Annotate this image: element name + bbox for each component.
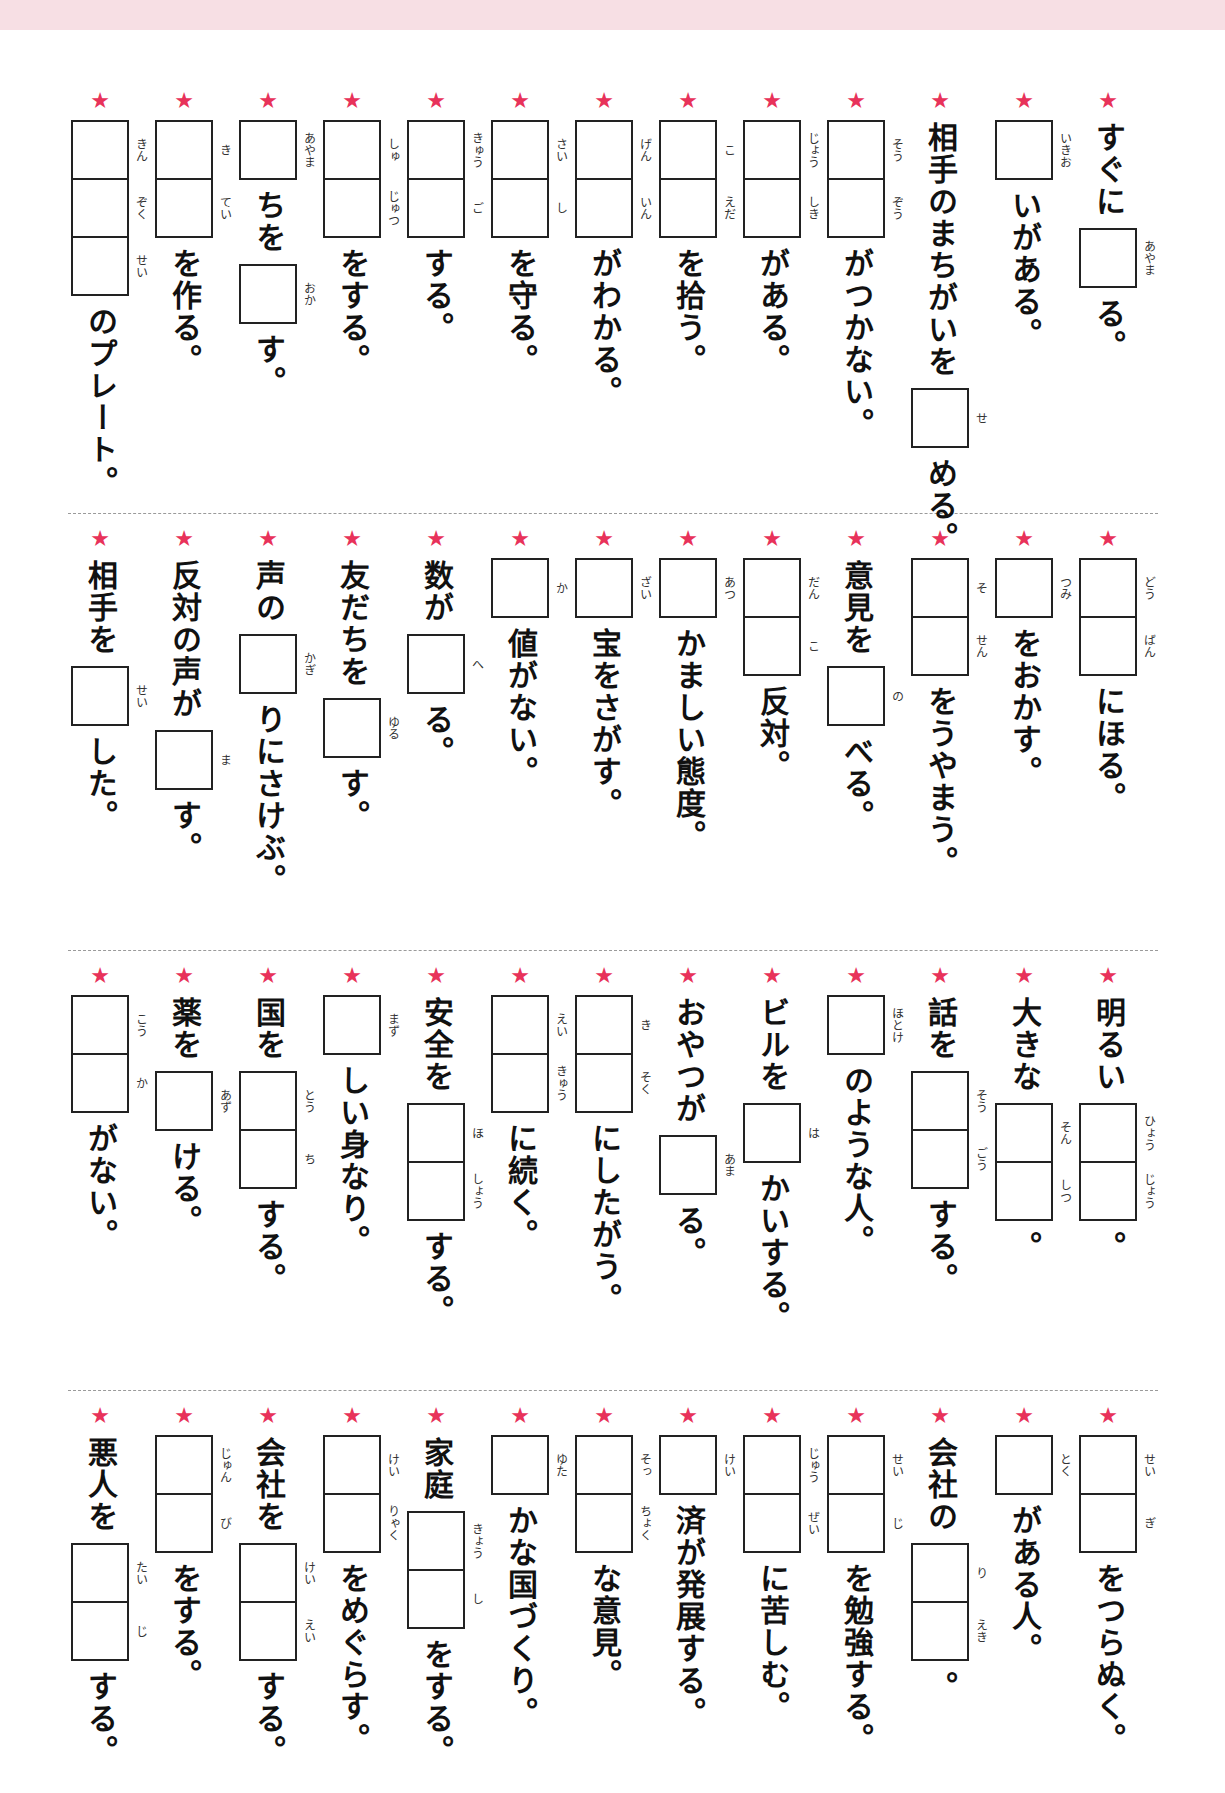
- answer-box[interactable]: たいじ: [71, 1543, 129, 1661]
- answer-cell[interactable]: けい: [325, 1437, 379, 1493]
- answer-box[interactable]: ざい: [575, 558, 633, 618]
- answer-box[interactable]: きょうし: [407, 1511, 465, 1629]
- answer-cell[interactable]: ほ: [409, 1105, 463, 1161]
- answer-cell[interactable]: ちょく: [577, 1493, 631, 1551]
- answer-box[interactable]: かぎ: [239, 634, 297, 694]
- answer-cell[interactable]: そ: [913, 560, 967, 616]
- answer-cell[interactable]: てい: [157, 178, 211, 236]
- answer-box[interactable]: ゆた: [491, 1435, 549, 1495]
- answer-box[interactable]: そうぞう: [827, 120, 885, 238]
- answer-cell[interactable]: つみ: [997, 560, 1051, 616]
- answer-cell[interactable]: ち: [241, 1129, 295, 1187]
- answer-box[interactable]: えいきゅう: [491, 995, 549, 1113]
- answer-cell[interactable]: せい: [73, 236, 127, 294]
- answer-cell[interactable]: こ: [745, 616, 799, 674]
- answer-cell[interactable]: じゅう: [745, 1437, 799, 1493]
- answer-cell[interactable]: き: [157, 122, 211, 178]
- answer-box[interactable]: どうばん: [1079, 558, 1137, 676]
- answer-box[interactable]: せい: [71, 666, 129, 726]
- answer-cell[interactable]: とく: [997, 1437, 1051, 1493]
- answer-box[interactable]: きゅうご: [407, 120, 465, 238]
- answer-cell[interactable]: けい: [241, 1545, 295, 1601]
- answer-box[interactable]: こえだ: [659, 120, 717, 238]
- answer-box[interactable]: そっちょく: [575, 1435, 633, 1553]
- answer-cell[interactable]: ゆる: [325, 700, 379, 756]
- answer-cell[interactable]: せ: [913, 390, 967, 446]
- answer-cell[interactable]: そっ: [577, 1437, 631, 1493]
- answer-box[interactable]: けいりゃく: [323, 1435, 381, 1553]
- answer-cell[interactable]: ぜい: [745, 1493, 799, 1551]
- answer-box[interactable]: の: [827, 666, 885, 726]
- answer-cell[interactable]: じ: [829, 1493, 883, 1551]
- answer-cell[interactable]: どう: [1081, 560, 1135, 616]
- answer-box[interactable]: あやま: [239, 120, 297, 180]
- answer-cell[interactable]: だん: [745, 560, 799, 616]
- answer-box[interactable]: ほとけ: [827, 995, 885, 1055]
- answer-cell[interactable]: か: [73, 1053, 127, 1111]
- answer-box[interactable]: じゅんび: [155, 1435, 213, 1553]
- answer-cell[interactable]: じ: [73, 1601, 127, 1659]
- answer-cell[interactable]: きゅう: [409, 122, 463, 178]
- answer-box[interactable]: ゆる: [323, 698, 381, 758]
- answer-cell[interactable]: じゅん: [157, 1437, 211, 1493]
- answer-cell[interactable]: し: [493, 178, 547, 236]
- answer-cell[interactable]: しゅ: [325, 122, 379, 178]
- answer-cell[interactable]: へ: [409, 636, 463, 692]
- answer-cell[interactable]: し: [409, 1569, 463, 1627]
- answer-cell[interactable]: ざい: [577, 560, 631, 616]
- answer-box[interactable]: じゅうぜい: [743, 1435, 801, 1553]
- answer-cell[interactable]: ひょう: [1081, 1105, 1135, 1161]
- answer-cell[interactable]: えだ: [661, 178, 715, 236]
- answer-cell[interactable]: き: [577, 997, 631, 1053]
- answer-box[interactable]: とうち: [239, 1071, 297, 1189]
- answer-box[interactable]: つみ: [995, 558, 1053, 618]
- answer-cell[interactable]: えい: [241, 1601, 295, 1659]
- answer-box[interactable]: けいえい: [239, 1543, 297, 1661]
- answer-box[interactable]: きてい: [155, 120, 213, 238]
- answer-cell[interactable]: きん: [73, 122, 127, 178]
- answer-cell[interactable]: きゅう: [493, 1053, 547, 1111]
- answer-cell[interactable]: しき: [745, 178, 799, 236]
- answer-cell[interactable]: じょう: [745, 122, 799, 178]
- answer-box[interactable]: じょうしき: [743, 120, 801, 238]
- answer-cell[interactable]: げん: [577, 122, 631, 178]
- answer-cell[interactable]: えき: [913, 1601, 967, 1659]
- answer-cell[interactable]: あま: [661, 1137, 715, 1193]
- answer-box[interactable]: へ: [407, 634, 465, 694]
- answer-cell[interactable]: び: [157, 1493, 211, 1551]
- answer-cell[interactable]: あず: [157, 1073, 211, 1129]
- answer-cell[interactable]: ぎ: [1081, 1493, 1135, 1551]
- answer-box[interactable]: さいし: [491, 120, 549, 238]
- answer-cell[interactable]: きょう: [409, 1513, 463, 1569]
- answer-cell[interactable]: あやま: [241, 122, 295, 178]
- answer-cell[interactable]: まず: [325, 997, 379, 1053]
- answer-box[interactable]: ほしょう: [407, 1103, 465, 1221]
- answer-cell[interactable]: そう: [913, 1073, 967, 1129]
- answer-cell[interactable]: りゃく: [325, 1493, 379, 1551]
- answer-cell[interactable]: そん: [997, 1105, 1051, 1161]
- answer-cell[interactable]: いきお: [997, 122, 1051, 178]
- answer-cell[interactable]: ご: [409, 178, 463, 236]
- answer-cell[interactable]: ぞく: [73, 178, 127, 236]
- answer-box[interactable]: げんいん: [575, 120, 633, 238]
- answer-box[interactable]: あず: [155, 1071, 213, 1131]
- answer-cell[interactable]: えい: [493, 997, 547, 1053]
- answer-box[interactable]: あつ: [659, 558, 717, 618]
- answer-box[interactable]: きんぞくせい: [71, 120, 129, 296]
- answer-box[interactable]: おか: [239, 264, 297, 324]
- answer-cell[interactable]: さい: [493, 122, 547, 178]
- answer-box[interactable]: そんしつ: [995, 1103, 1053, 1221]
- answer-cell[interactable]: ほとけ: [829, 997, 883, 1053]
- answer-box[interactable]: まず: [323, 995, 381, 1055]
- answer-cell[interactable]: あつ: [661, 560, 715, 616]
- answer-box[interactable]: あやま: [1079, 228, 1137, 288]
- answer-cell[interactable]: そく: [577, 1053, 631, 1111]
- answer-cell[interactable]: せい: [73, 668, 127, 724]
- answer-cell[interactable]: ま: [157, 732, 211, 788]
- answer-cell[interactable]: しょう: [409, 1161, 463, 1219]
- answer-box[interactable]: は: [743, 1103, 801, 1163]
- answer-cell[interactable]: とう: [241, 1073, 295, 1129]
- answer-cell[interactable]: しつ: [997, 1161, 1051, 1219]
- answer-box[interactable]: きそく: [575, 995, 633, 1113]
- answer-box[interactable]: せいぎ: [1079, 1435, 1137, 1553]
